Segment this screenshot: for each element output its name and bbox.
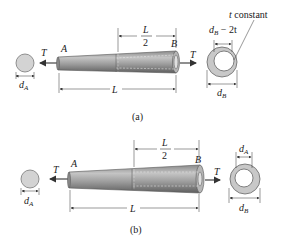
- inner-dim-label-b: dA: [239, 143, 249, 156]
- half-length-denominator-b: 2: [162, 150, 167, 161]
- right-cross-section-b: dA dB: [229, 143, 260, 215]
- half-length-denominator-a: 2: [143, 37, 148, 48]
- torque-arrow-right-b: T: [205, 166, 221, 180]
- half-length-numerator-a: L: [142, 24, 149, 35]
- length-label-b: L: [129, 203, 136, 214]
- dim-dA-label-a: dA: [19, 79, 29, 92]
- figure-b: dA T A B T: [21, 137, 260, 236]
- torque-arrow-left-a: T: [40, 47, 57, 63]
- dim-dB-label-b: dB: [239, 202, 249, 215]
- length-dimension-a: L: [59, 73, 176, 95]
- length-label-a: L: [111, 84, 118, 95]
- torque-arrow-left-b: T: [50, 164, 68, 179]
- half-length-numerator-b: L: [161, 137, 168, 148]
- end-a-label-a: A: [60, 43, 68, 54]
- right-cross-section-a: dB − 2t t constant dB: [207, 9, 268, 100]
- dim-dA-label-b: dA: [24, 195, 34, 208]
- caption-a: (a): [132, 111, 143, 123]
- half-length-dimension-b: L 2: [134, 137, 199, 167]
- end-b-label-b: B: [195, 154, 201, 165]
- torque-label-right-b: T: [214, 166, 221, 177]
- half-length-dimension-a: L 2: [118, 24, 176, 52]
- dim-dB-label-a: dB: [217, 87, 227, 100]
- torque-arrow-right-a: T: [180, 49, 197, 63]
- tapered-shaft-b: A B: [68, 154, 205, 193]
- figure-a: dA T A B T: [16, 9, 268, 123]
- torque-label-right-a: T: [190, 49, 197, 60]
- length-dimension-b: L: [70, 190, 199, 214]
- thickness-note-a: t constant: [229, 9, 268, 20]
- inner-dim-label-a: dB − 2t: [209, 24, 237, 37]
- torque-label-left-a: T: [41, 47, 48, 58]
- end-a-label-b: A: [70, 158, 78, 169]
- diagram-canvas: dA T A B T: [0, 0, 283, 243]
- caption-b: (b): [130, 224, 142, 236]
- torque-label-left-b: T: [53, 164, 60, 175]
- left-cross-section-b: dA: [21, 170, 39, 208]
- left-cross-section-a: dA: [16, 54, 34, 92]
